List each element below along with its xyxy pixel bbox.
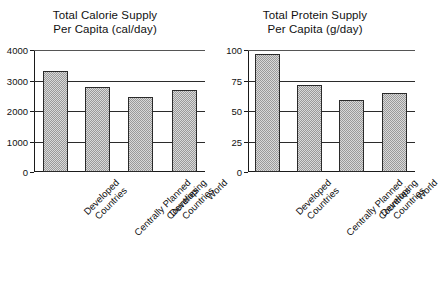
bar-calorie-3 [172, 90, 197, 172]
tick-mark-protein-0 [244, 172, 248, 173]
category-label-line1: World [414, 177, 439, 202]
bar-protein-0 [255, 54, 280, 172]
panel-protein-title-line1: Total Protein Supply [210, 8, 420, 22]
panel-protein-title-line2: Per Capita (g/day) [210, 22, 420, 36]
tick-mark-protein-25 [244, 142, 248, 143]
panel-calorie-supply: Total Calorie Supply Per Capita (cal/day… [0, 0, 210, 290]
category-label-protein-2: DevelopingCountries [378, 177, 427, 226]
category-label-calorie-0: DevelopedCountries [81, 177, 129, 225]
category-label-calorie-2: DevelopingCountries [167, 177, 216, 226]
y-tick-label-calorie-1000: 1000 [7, 136, 28, 147]
y-tick-label-protein-25: 25 [231, 136, 242, 147]
y-tick-label-protein-0: 0 [237, 167, 242, 178]
tick-mark-calorie-2000 [30, 111, 34, 112]
bar-calorie-2 [128, 97, 153, 172]
bar-protein-2 [339, 100, 364, 172]
tick-mark-calorie-1000 [30, 142, 34, 143]
plot-area-calorie: 01000200030004000 DevelopedCountriesCent… [34, 50, 205, 172]
panel-protein-supply: Total Protein Supply Per Capita (g/day) … [210, 0, 420, 290]
y-tick-label-calorie-4000: 4000 [7, 45, 28, 56]
tick-mark-calorie-0 [30, 172, 34, 173]
bar-protein-3 [382, 93, 407, 172]
tick-mark-protein-50 [244, 111, 248, 112]
panel-calorie-title: Total Calorie Supply Per Capita (cal/day… [0, 8, 210, 36]
bar-calorie-0 [43, 71, 68, 172]
plot-area-protein: 0255075100 DevelopedCountriesCentrally P… [248, 50, 415, 172]
category-label-protein-3: World [414, 177, 439, 202]
tick-mark-protein-100 [244, 50, 248, 51]
panel-calorie-title-line1: Total Calorie Supply [0, 8, 210, 22]
y-tick-label-protein-100: 100 [226, 45, 242, 56]
y-tick-label-calorie-2000: 2000 [7, 106, 28, 117]
y-tick-label-protein-50: 50 [231, 106, 242, 117]
bar-calorie-1 [85, 87, 110, 172]
bar-protein-1 [297, 85, 322, 172]
y-tick-label-calorie-0: 0 [23, 167, 28, 178]
y-tick-label-protein-75: 75 [231, 75, 242, 86]
gridline-calorie-4000 [34, 50, 205, 51]
tick-mark-calorie-3000 [30, 81, 34, 82]
tick-mark-protein-75 [244, 81, 248, 82]
y-tick-label-calorie-3000: 3000 [7, 75, 28, 86]
gridline-protein-100 [248, 50, 415, 51]
panel-protein-title: Total Protein Supply Per Capita (g/day) [210, 8, 420, 36]
panel-calorie-title-line2: Per Capita (cal/day) [0, 22, 210, 36]
category-label-protein-0: DevelopedCountries [293, 177, 341, 225]
tick-mark-calorie-4000 [30, 50, 34, 51]
